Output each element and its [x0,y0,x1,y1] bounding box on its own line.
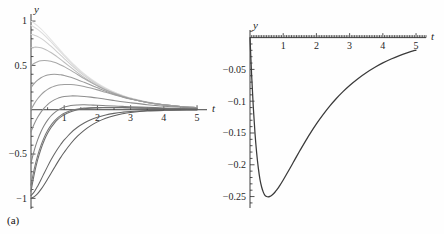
plot-panel-b: 12345t−0.25−0.2−0.15−0.1−0.05y (b) [222,0,444,234]
plot-panel-a: 12345t−1−0.50.51y (a) [0,0,222,234]
y-tick-label: −0.5 [9,148,27,159]
x-tick-label: 3 [128,112,133,123]
data-curve [31,74,197,107]
y-tick-label: 1 [22,15,27,26]
x-tick-label: 5 [414,40,419,51]
figure-container: 12345t−1−0.50.51y (a) 12345t−0.25−0.2−0.… [0,0,444,234]
y-tick-label: 0.5 [15,60,28,71]
x-tick-label: 2 [314,40,319,51]
plot-a-canvas: 12345t−1−0.50.51y [0,0,222,234]
plot-b-canvas: 12345t−0.25−0.2−0.15−0.1−0.05y [222,0,444,234]
data-curve [31,110,197,199]
y-tick-label: −0.2 [228,159,246,170]
panel-a-caption: (a) [7,214,19,226]
y-tick-label: −1 [16,193,27,204]
x-tick-label: 1 [281,40,286,51]
data-curve [31,110,197,196]
y-axis-label: y [252,19,258,31]
data-curve [31,108,197,192]
y-axis-label: y [33,3,39,15]
x-tick-label: 3 [347,40,352,51]
x-axis-label: t [212,102,216,114]
data-curve [31,107,197,185]
y-tick-label: −0.1 [228,96,246,107]
y-tick-label: −0.15 [223,127,246,138]
curves-group [250,38,416,197]
y-tick-label: −0.05 [223,64,246,75]
x-tick-label: 4 [161,112,166,123]
x-tick-label: 4 [380,40,385,51]
y-tick-label: −0.25 [223,191,246,202]
axes-group: 12345t−0.25−0.2−0.15−0.1−0.05y [223,19,435,208]
data-curve [250,38,416,197]
x-axis-label: t [431,30,435,42]
x-tick-label: 5 [195,112,200,123]
